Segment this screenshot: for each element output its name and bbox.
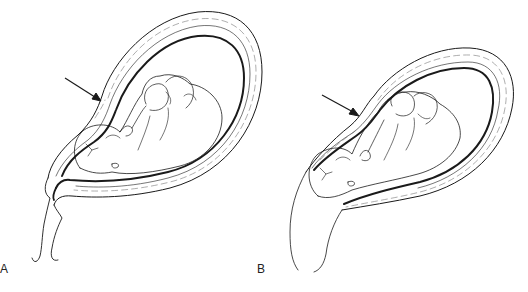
medical-figure: A B: [0, 0, 528, 292]
panel-b-label: B: [257, 263, 265, 275]
figure-caption-clipped: [0, 286, 528, 292]
panel-a-label: A: [0, 263, 8, 275]
panel-a-illustration: [0, 0, 264, 280]
arrow-icon: [322, 95, 359, 116]
arrow-icon: [65, 78, 101, 101]
